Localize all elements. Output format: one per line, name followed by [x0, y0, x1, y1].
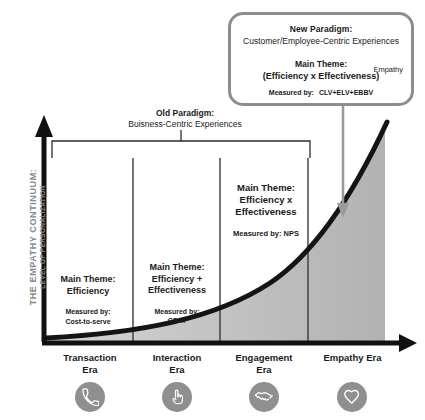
y-axis-caption: THE EMPATHY CONTINUUM: LEVEL OF PERSONAL…	[28, 137, 46, 337]
column-measured-label: Measured by:	[136, 307, 218, 317]
era-label-interaction: InteractionEra	[133, 352, 221, 375]
column-measured-value: Cost-to-serve	[47, 317, 129, 327]
column-block-engagement: Main Theme: Efficiency xEffectiveness Me…	[223, 182, 309, 239]
callout-title: New Paradigm:	[231, 24, 411, 34]
callout-measured-by: Measured by:CLV+ELV+EBBV	[231, 89, 411, 96]
callout-pointer-arrow	[336, 104, 350, 220]
y-axis-caption-line2: LEVEL OF PERSONALIZATION	[39, 137, 46, 337]
x-axis-arrowhead	[399, 334, 417, 352]
old-paradigm-title: Old Paradigm:	[95, 108, 275, 118]
callout-subtitle: Customer/Employee-Centric Experiences	[231, 36, 411, 46]
handshake-icon	[254, 387, 274, 407]
y-axis-caption-line1: THE EMPATHY CONTINUUM:	[28, 137, 38, 337]
new-paradigm-callout[interactable]: New Paradigm: Customer/Employee-Centric …	[228, 12, 414, 106]
callout-measured-value: CLV+ELV+EBBV	[319, 89, 373, 96]
era-icon-transaction	[75, 382, 105, 412]
column-theme-value: Efficiency	[47, 286, 129, 298]
callout-empathy-tag: Empathy	[373, 65, 403, 74]
column-block-interaction: Main Theme: Efficiency +Effectiveness Me…	[136, 262, 218, 326]
heart-icon	[343, 388, 361, 406]
touch-finger-icon	[168, 388, 186, 406]
y-axis-arrowhead	[35, 115, 53, 137]
era-label-empathy: Empathy Era	[305, 352, 400, 364]
callout-measured-label: Measured by:	[269, 89, 314, 96]
column-measured-label: Measured by:	[47, 307, 129, 317]
empathy-continuum-chart: New Paradigm: Customer/Employee-Centric …	[0, 0, 425, 420]
era-label-engagement: EngagementEra	[220, 352, 308, 375]
era-icon-engagement	[249, 382, 279, 412]
column-theme-value: Efficiency +Effectiveness	[136, 274, 218, 297]
old-paradigm-label: Old Paradigm: Buisness-Centric Experienc…	[95, 108, 275, 129]
column-theme-label: Main Theme:	[47, 274, 129, 286]
era-icon-empathy	[337, 382, 367, 412]
column-theme-label: Main Theme:	[136, 262, 218, 274]
column-measured-value: CSAT	[136, 316, 218, 326]
phone-icon	[81, 388, 99, 406]
old-paradigm-bracket	[52, 141, 310, 158]
era-label-transaction: TransactionEra	[46, 352, 134, 375]
old-paradigm-subtitle: Buisness-Centric Experiences	[95, 119, 275, 129]
column-theme-label: Main Theme:	[223, 182, 309, 194]
column-block-transaction: Main Theme: Efficiency Measured by: Cost…	[47, 274, 129, 326]
era-icon-interaction	[162, 382, 192, 412]
column-measured-label: Measured by: NPS	[223, 229, 309, 239]
column-theme-value: Efficiency xEffectiveness	[223, 194, 309, 218]
